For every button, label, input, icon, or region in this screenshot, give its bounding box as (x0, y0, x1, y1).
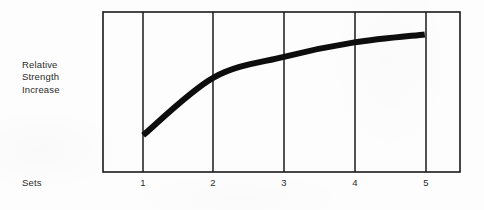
x-tick-label-2: 2 (203, 177, 223, 188)
x-tick-label-5: 5 (416, 177, 436, 188)
x-tick-label-3: 3 (274, 177, 294, 188)
x-tick-label-1: 1 (133, 177, 153, 188)
plot-area (0, 0, 484, 210)
chart-screenshot: RelativeStrengthIncrease Sets 1 2 3 4 5 (0, 0, 484, 210)
x-tick-label-4: 4 (345, 177, 365, 188)
